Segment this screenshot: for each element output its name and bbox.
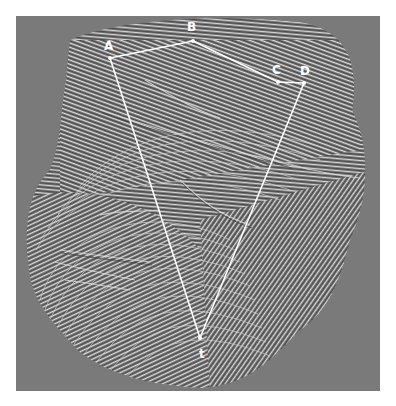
vertex-label-t: t	[199, 347, 205, 361]
vertex-label-b: B	[187, 20, 196, 34]
vertex-label-d: D	[300, 64, 310, 78]
fingerprint-figure: ABCDt	[0, 0, 396, 406]
vertex-marker-t	[198, 336, 202, 340]
vertex-marker-b	[191, 39, 195, 43]
vertex-label-c: C	[272, 63, 281, 77]
vertex-marker-a	[108, 56, 112, 60]
vertex-label-a: A	[104, 39, 114, 53]
vertex-marker-c	[276, 80, 280, 84]
vertex-marker-d	[302, 81, 306, 85]
